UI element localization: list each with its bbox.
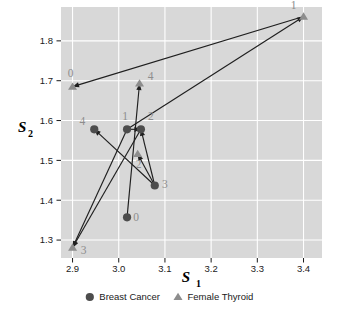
point-circle-4 [90,125,98,133]
point-label-circle-4: 4 [79,115,85,127]
point-label-triangle-1: 1 [291,0,297,11]
x-tick-label: 3.2 [205,263,218,274]
legend-marker-circle [86,293,94,301]
scatter-plot-figure: 1.31.41.51.61.71.8 2.93.03.13.23.33.4 01… [0,0,342,312]
point-circle-3 [151,181,159,189]
x-tick-label: 3.3 [251,263,264,274]
point-label-circle-0: 0 [133,211,139,223]
x-tick-label: 3.4 [297,263,310,274]
y-axis-title-subscript: 2 [28,128,33,139]
y-tick-label: 1.7 [40,75,53,86]
y-tick-label: 1.5 [40,155,53,166]
point-circle-2 [137,125,145,133]
point-label-triangle-3: 3 [81,244,87,256]
y-tick-label: 1.4 [40,195,53,206]
point-label-triangle-0: 0 [68,67,74,79]
y-tick-label: 1.8 [40,35,53,46]
legend-label: Female Thyroid [188,291,254,302]
point-label-triangle-2: 2 [136,158,142,170]
y-axis-title: S [18,119,26,135]
legend-label: Breast Cancer [99,291,160,302]
x-tick-label: 3.1 [158,263,171,274]
point-label-circle-3: 3 [162,178,168,190]
y-tick-label: 1.6 [40,115,53,126]
x-axis-title-subscript: 1 [196,278,201,289]
x-tick-label: 2.9 [66,263,79,274]
y-tick-label: 1.3 [40,234,53,245]
point-label-circle-1: 1 [122,110,128,122]
x-axis-title: S [182,269,190,285]
point-circle-0 [123,213,131,221]
point-label-triangle-4: 4 [148,70,154,82]
x-tick-label: 3.0 [112,263,125,274]
point-circle-1 [123,125,131,133]
point-label-circle-2: 2 [148,110,154,122]
